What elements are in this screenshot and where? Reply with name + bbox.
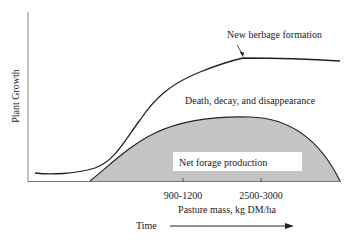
time-label: Time xyxy=(136,220,157,231)
pasture-growth-diagram: Plant Growth New herbage formation Death… xyxy=(0,0,353,242)
y-axis-label: Plant Growth xyxy=(10,69,21,123)
tick-label-1: 900-1200 xyxy=(164,190,202,201)
x-axis-label: Pasture mass, kg DM/ha xyxy=(178,204,276,215)
net-forage-area xyxy=(90,117,340,181)
net-forage-label: Net forage production xyxy=(179,157,267,168)
annotation-arrowhead xyxy=(240,52,245,58)
tick-label-2: 2500-3000 xyxy=(239,190,282,201)
death-decay-label: Death, decay, and disappearance xyxy=(185,95,316,106)
new-herbage-label: New herbage formation xyxy=(227,29,322,40)
time-arrowhead xyxy=(285,223,294,229)
